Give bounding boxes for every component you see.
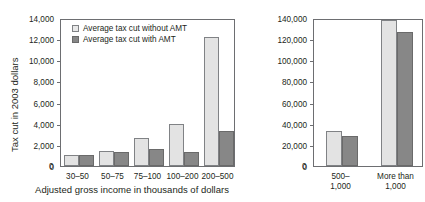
y-axis-title: Tax cut in 2003 dollars <box>9 57 20 152</box>
bar-group <box>131 138 166 166</box>
y-tick-label: 20,000 <box>282 141 307 150</box>
legend: Average tax cut without AMT Average tax … <box>72 23 187 45</box>
y-tick-label: 100,000 <box>277 57 307 66</box>
y-tick-label: 120,000 <box>277 36 307 45</box>
bar-with-amt <box>397 32 413 166</box>
bar-without-amt <box>169 124 184 166</box>
bar-without-amt <box>381 20 397 166</box>
bar-without-amt <box>134 138 149 166</box>
x-tick-label: 200–500 <box>194 172 241 182</box>
y-tick-label: 4,000 <box>34 120 55 129</box>
legend-swatch-light-icon <box>72 25 79 32</box>
bar-with-amt <box>184 152 199 166</box>
y-tick-label: 8,000 <box>34 78 55 87</box>
bar-group <box>166 124 201 166</box>
y-tick-label: 2,000 <box>34 141 55 150</box>
bar-without-amt <box>64 155 79 166</box>
bar-group <box>61 155 96 166</box>
bar-without-amt <box>99 151 114 166</box>
bar-with-amt <box>149 149 164 166</box>
y-tick-label: 140,000 <box>277 15 307 24</box>
y-tick-label: 60,000 <box>282 99 307 108</box>
right-bars <box>314 20 422 166</box>
legend-label-with-amt: Average tax cut with AMT <box>83 35 176 44</box>
x-tick-label: More than 1,000 <box>362 172 425 192</box>
tax-cut-figure: Tax cut in 2003 dollars 02,0004,0006,000… <box>0 0 425 202</box>
bar-group <box>201 37 236 166</box>
bar-with-amt <box>79 155 94 166</box>
bar-group <box>96 151 131 166</box>
bar-with-amt <box>342 136 358 166</box>
bar-with-amt <box>114 152 129 166</box>
bar-without-amt <box>326 131 342 166</box>
y-tick-label-zero: 0 <box>49 162 54 171</box>
bar-group <box>369 20 424 166</box>
y-tick-label: 10,000 <box>29 57 54 66</box>
legend-item-with-amt: Average tax cut with AMT <box>72 34 187 45</box>
legend-swatch-dark-icon <box>72 36 79 43</box>
bar-group <box>314 131 369 166</box>
bar-without-amt <box>204 37 219 166</box>
y-tick-label: 12,000 <box>29 36 54 45</box>
x-axis-title: Adjusted gross income in thousands of do… <box>22 184 242 195</box>
y-tick-label: 40,000 <box>282 120 307 129</box>
bar-with-amt <box>219 131 234 166</box>
right-plot-area <box>313 19 423 167</box>
y-tick-label: 6,000 <box>34 99 55 108</box>
y-tick-label: 14,000 <box>29 15 54 24</box>
left-panel: Tax cut in 2003 dollars 02,0004,0006,000… <box>0 0 240 202</box>
y-tick-label: 80,000 <box>282 78 307 87</box>
right-panel: 020,00040,00060,00080,000100,000120,0001… <box>255 0 425 202</box>
legend-label-without-amt: Average tax cut without AMT <box>83 24 187 33</box>
y-tick-label-zero: 0 <box>302 162 307 171</box>
legend-item-without-amt: Average tax cut without AMT <box>72 23 187 34</box>
